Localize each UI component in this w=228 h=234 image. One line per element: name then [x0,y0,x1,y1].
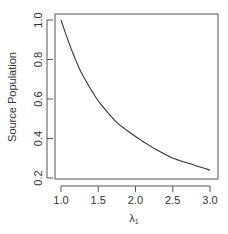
plot-frame [55,14,218,179]
y-axis-label: Source Population [6,52,18,142]
y-tick-label: 0.8 [32,52,44,67]
y-tick-label: 0.6 [32,91,44,106]
x-axis: 1.01.52.02.53.0 [53,186,217,206]
x-tick-label: 3.0 [202,194,217,206]
chart: 0.20.40.60.81.0 1.01.52.02.53.0 Source P… [0,0,228,234]
x-tick-label: 1.5 [91,194,106,206]
y-tick-label: 0.4 [32,131,44,146]
x-axis-label: λ1 [129,212,139,225]
x-tick-label: 2.5 [165,194,180,206]
data-line [61,20,210,170]
x-tick-label: 1.0 [53,194,68,206]
y-axis: 0.20.40.60.81.0 [32,12,53,185]
x-tick-label: 2.0 [128,194,143,206]
y-tick-label: 0.2 [32,170,44,185]
y-tick-label: 1.0 [32,12,44,27]
